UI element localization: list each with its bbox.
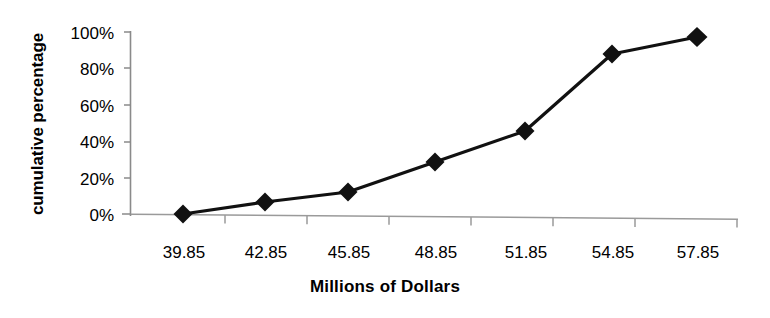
x-tick-label-5: 54.85: [568, 243, 658, 263]
x-axis-title: Millions of Dollars: [0, 277, 770, 297]
chart-figure: cumulative percentage 100% 80% 60% 40% 2…: [0, 0, 770, 318]
y-axis-ticks: [122, 32, 131, 214]
x-tick-label-6: 57.85: [653, 243, 743, 263]
data-point-marker-6: [687, 27, 708, 47]
data-point-marker-3: [426, 153, 445, 172]
x-axis-line: [130, 214, 738, 219]
x-tick-label-0: 39.85: [139, 243, 229, 263]
x-axis-tick-labels: 39.85 42.85 45.85 48.85 51.85 54.85 57.8…: [0, 243, 770, 269]
data-point-marker-2: [339, 183, 358, 202]
data-point-markers: [174, 27, 708, 224]
x-tick-label-3: 48.85: [391, 243, 481, 263]
data-point-marker-1: [256, 193, 275, 212]
plot-area: [0, 0, 770, 318]
x-tick-label-1: 42.85: [221, 243, 311, 263]
data-point-marker-0: [174, 205, 193, 224]
data-line-cumulative-percentage: [183, 37, 697, 214]
x-tick-label-2: 45.85: [304, 243, 394, 263]
x-tick-label-4: 51.85: [481, 243, 571, 263]
